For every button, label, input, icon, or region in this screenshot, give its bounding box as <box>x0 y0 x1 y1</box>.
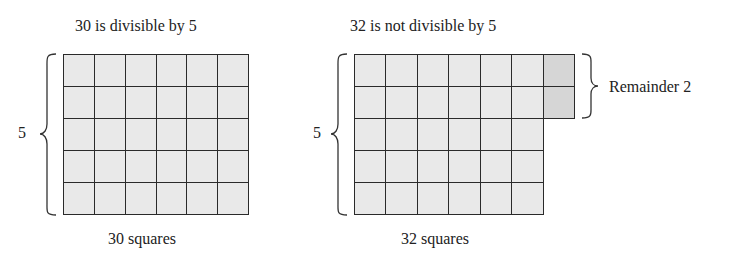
remainder-brace-icon <box>582 54 598 118</box>
left-rows-brace-icon <box>40 54 56 215</box>
right-rows-brace-icon <box>331 54 347 215</box>
braces-layer <box>0 0 729 261</box>
